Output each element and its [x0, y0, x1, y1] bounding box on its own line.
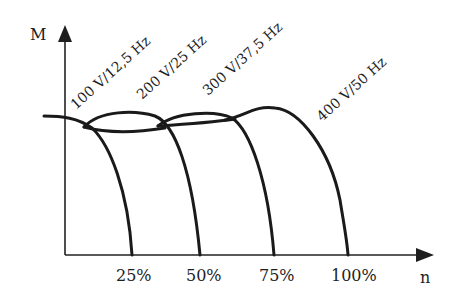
label-100v: 100 V/12,5 Hz — [67, 33, 153, 113]
y-axis-label: M — [30, 25, 46, 44]
tick-75: 75% — [259, 266, 295, 285]
x-axis-arrow-icon — [416, 248, 434, 262]
label-400v: 400 V/50 Hz — [313, 54, 389, 125]
torque-speed-diagram: M n 25% 50% 75% 100% 100 V/12,5 Hz 200 V… — [0, 0, 457, 300]
curve-100v — [44, 116, 132, 255]
tick-50: 50% — [186, 266, 222, 285]
curve-200v — [84, 112, 200, 255]
tick-25: 25% — [116, 266, 152, 285]
curve-300v — [158, 113, 274, 255]
y-axis-arrow-icon — [58, 25, 72, 42]
curve-200v-lower — [84, 127, 165, 132]
tick-100: 100% — [331, 266, 377, 285]
label-300v: 300 V/37,5 Hz — [199, 19, 285, 99]
x-axis-label: n — [420, 268, 430, 287]
